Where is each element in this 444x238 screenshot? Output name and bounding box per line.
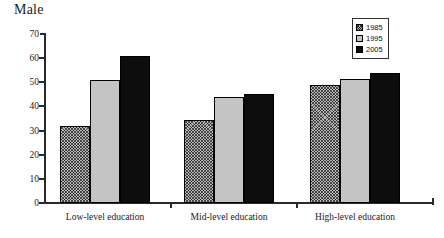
bar-group [60,34,150,203]
chart-title: Male [14,2,44,18]
legend-swatch-icon [356,46,363,53]
legend-item-2005: 2005 [356,44,383,55]
bar-1995-mid [214,97,244,203]
bar-2005-mid [244,94,274,203]
bar-series-area [46,34,432,203]
y-tick-mark [39,130,46,132]
legend-label: 1985 [366,24,383,32]
y-tick-label: 20 [30,150,40,160]
legend-label: 1995 [366,35,383,43]
bar-group [310,34,400,203]
y-tick-label: 50 [30,77,40,87]
chart-legend: 198519952005 [352,18,389,59]
bar-group [184,34,274,203]
legend-item-1995: 1995 [356,33,383,44]
y-tick-label: 70 [30,29,40,39]
y-tick-label: 30 [30,126,40,136]
legend-item-1985: 1985 [356,22,383,33]
category-label: High-level education [315,212,395,222]
y-tick-mark [39,105,46,107]
legend-label: 2005 [366,46,383,54]
y-tick-label: 10 [30,174,40,184]
y-tick-mark [39,154,46,156]
bar-1985-low [60,126,90,203]
bar-1995-high [340,79,370,203]
x-axis-tick [432,198,434,205]
bar-2005-high [370,73,400,203]
category-label: Mid-level education [191,212,268,222]
bar-chart: Male 010203040506070 Low-level education… [0,0,444,238]
category-label: Low-level education [66,212,144,222]
legend-swatch-icon [356,35,363,42]
bar-2005-low [120,56,150,203]
bar-1985-high [310,85,340,203]
y-tick-mark [39,178,46,180]
y-tick-label: 0 [34,198,39,208]
y-tick-mark [39,81,46,83]
bar-1995-low [90,80,120,203]
y-tick-label: 40 [30,101,40,111]
y-tick-mark [39,57,46,59]
legend-swatch-icon [356,24,363,31]
y-tick-label: 60 [30,53,40,63]
bar-1985-mid [184,120,214,203]
